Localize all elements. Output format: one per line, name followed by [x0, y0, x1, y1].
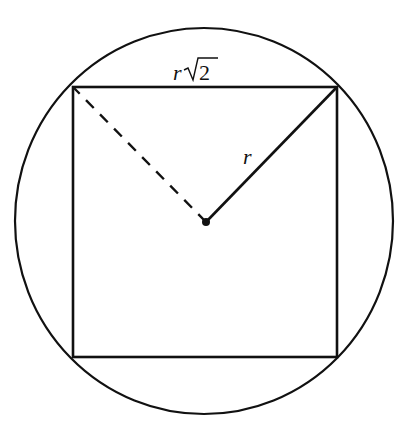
radius-label: r	[243, 144, 252, 169]
side-length-label: r 2	[173, 58, 218, 85]
diagram-canvas: r 2 r	[0, 0, 406, 427]
radius-dashed-line	[73, 87, 206, 222]
side-label-r: r	[173, 60, 182, 85]
radius-solid-line	[206, 87, 337, 222]
center-point	[202, 218, 210, 226]
side-label-2: 2	[199, 60, 210, 85]
